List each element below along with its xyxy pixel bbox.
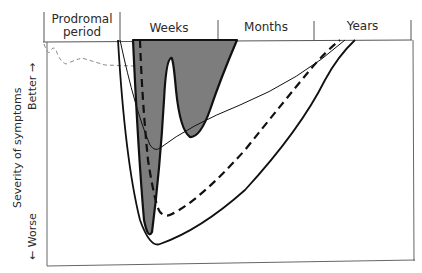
phase-label-prodromal-line2: period xyxy=(44,26,120,39)
y-axis-worse-label: ← Worse xyxy=(26,213,39,260)
prodromal-dashed-curve xyxy=(44,44,134,66)
thick-dashed-curve xyxy=(140,40,340,216)
y-axis-better-label: Better → xyxy=(26,63,39,110)
plot-frame xyxy=(47,40,415,266)
phase-label-years: Years xyxy=(314,20,411,33)
illness-course-diagram: Prodromal period Weeks Months Years Bett… xyxy=(0,0,422,273)
shaded-recurrent-curve xyxy=(133,40,237,234)
diagram-graphics xyxy=(0,0,422,273)
phase-label-weeks: Weeks xyxy=(120,22,218,35)
phase-label-months: Months xyxy=(218,21,314,34)
phase-label-prodromal: Prodromal period xyxy=(44,13,120,39)
y-axis-title: Severity of symptoms xyxy=(11,88,24,208)
